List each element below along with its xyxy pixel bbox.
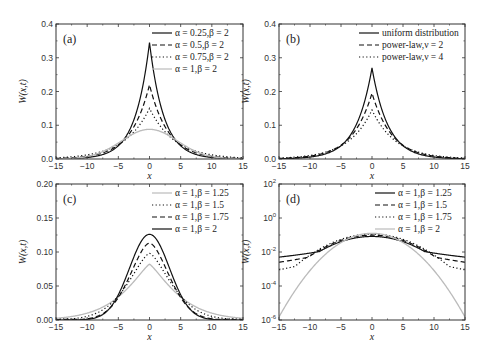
x-tick-label: 15 xyxy=(238,161,248,171)
y-tick-label: 102 xyxy=(263,178,276,189)
curves xyxy=(279,68,465,159)
x-tick-label: −5 xyxy=(113,161,123,171)
y-tick-label: 10-4 xyxy=(261,280,276,291)
series-line xyxy=(279,110,465,158)
x-tick-label: −10 xyxy=(303,161,318,171)
legend-label: α = 0.5,β = 2 xyxy=(175,40,224,50)
y-axis-label: W(x,t) xyxy=(240,239,252,264)
series-line xyxy=(56,85,243,159)
x-axis-label: x xyxy=(369,170,375,181)
panel-label: (b) xyxy=(286,32,300,46)
y-tick-label: 0.3 xyxy=(41,53,53,63)
legend-label: α = 1,β = 1.25 xyxy=(175,188,229,198)
panel-c: −15−10−50510150.000.050.100.150.20xW(x,t… xyxy=(17,179,248,342)
legend-label: α = 1,β = 2 xyxy=(175,224,217,234)
panel-label: (a) xyxy=(63,32,76,46)
legend: α = 1,β = 1.25α = 1,β = 1.5α = 1,β = 1.7… xyxy=(152,188,229,234)
y-tick-label: 0.10 xyxy=(36,247,53,257)
series-line xyxy=(279,233,465,317)
panel-label: (d) xyxy=(286,192,300,206)
x-tick-label: 15 xyxy=(460,161,470,171)
legend-label: α = 1,β = 1.75 xyxy=(175,212,229,222)
legend-label: α = 1,β = 1.25 xyxy=(398,188,452,198)
x-axis-label: x xyxy=(146,170,152,181)
series-line xyxy=(56,243,243,319)
series-line xyxy=(279,236,465,257)
series-line xyxy=(56,253,243,319)
x-tick-label: 15 xyxy=(238,322,248,332)
x-tick-label: 10 xyxy=(207,161,217,171)
y-tick-label: 0.20 xyxy=(36,179,53,189)
y-axis-label: W(x,t) xyxy=(17,78,29,103)
y-tick-label: 0.0 xyxy=(264,154,276,164)
panel-label: (c) xyxy=(63,192,76,206)
series-line xyxy=(56,129,243,159)
panel-d: −15−10−505101510-610-410-2100102xW(x,t)(… xyxy=(240,178,470,342)
series-line xyxy=(56,234,243,320)
x-tick-label: −5 xyxy=(336,161,346,171)
y-tick-label: 0.15 xyxy=(36,213,53,223)
y-axis-label: W(x,t) xyxy=(240,78,252,103)
legend-label: α = 1,β = 1.75 xyxy=(398,212,452,222)
legend: α = 1,β = 1.25α = 1,β = 1.5α = 1,β = 1.7… xyxy=(375,188,452,234)
y-tick-label: 100 xyxy=(263,212,276,223)
legend: uniform distributionpower-law,ν = 2power… xyxy=(359,28,459,62)
y-axis-label: W(x,t) xyxy=(17,239,29,264)
legend: α = 0.25,β = 2α = 0.5,β = 2α = 0.75,β = … xyxy=(152,28,229,74)
legend-label: α = 0.75,β = 2 xyxy=(175,52,229,62)
x-axis-label: x xyxy=(369,331,375,342)
x-tick-label: 5 xyxy=(178,161,183,171)
legend-label: α = 0.25,β = 2 xyxy=(175,28,229,38)
x-tick-label: −5 xyxy=(113,322,123,332)
y-tick-label: 0.00 xyxy=(36,315,53,325)
x-tick-label: 15 xyxy=(460,322,470,332)
x-tick-label: 10 xyxy=(207,322,217,332)
y-tick-label: 0.4 xyxy=(264,19,276,29)
panel-a: −15−10−50510150.00.10.20.30.4xW(x,t)(a)α… xyxy=(17,19,248,181)
legend-label: α = 1,β = 1.5 xyxy=(398,200,447,210)
y-tick-label: 0.2 xyxy=(264,87,276,97)
x-tick-label: 10 xyxy=(429,161,439,171)
series-line xyxy=(279,68,465,159)
legend-label: power-law,ν = 4 xyxy=(382,52,444,62)
series-line xyxy=(56,264,243,318)
x-tick-label: −10 xyxy=(80,161,95,171)
legend-label: α = 1,β = 2 xyxy=(398,224,440,234)
curves xyxy=(56,234,243,320)
y-tick-label: 0.1 xyxy=(264,120,276,130)
y-tick-label: 0.4 xyxy=(41,19,53,29)
curves xyxy=(279,233,465,317)
series-line xyxy=(279,234,465,270)
y-tick-label: 0.05 xyxy=(36,281,53,291)
legend-label: α = 1,β = 2 xyxy=(175,64,217,74)
legend-label: uniform distribution xyxy=(382,28,459,38)
y-tick-label: 0.2 xyxy=(41,87,53,97)
x-tick-label: −10 xyxy=(80,322,95,332)
x-tick-label: 10 xyxy=(429,322,439,332)
panel-b: −15−10−50510150.00.10.20.30.4xW(x,t)(b)u… xyxy=(240,19,470,181)
y-tick-label: 10-2 xyxy=(261,246,276,257)
x-tick-label: −10 xyxy=(303,322,318,332)
x-axis-label: x xyxy=(146,331,152,342)
series-line xyxy=(279,235,465,262)
series-line xyxy=(56,108,243,157)
series-line xyxy=(279,93,465,158)
x-tick-label: −5 xyxy=(336,322,346,332)
legend-label: α = 1,β = 1.5 xyxy=(175,200,224,210)
legend-label: power-law,ν = 2 xyxy=(382,40,444,50)
x-tick-label: 5 xyxy=(401,322,406,332)
x-tick-label: 5 xyxy=(178,322,183,332)
x-tick-label: 5 xyxy=(401,161,406,171)
y-tick-label: 0.3 xyxy=(264,53,276,63)
y-tick-label: 0.0 xyxy=(41,154,53,164)
x-tick-label: −15 xyxy=(272,322,287,332)
y-tick-label: 0.1 xyxy=(41,120,53,130)
figure: −15−10−50510150.00.10.20.30.4xW(x,t)(a)α… xyxy=(0,0,485,360)
